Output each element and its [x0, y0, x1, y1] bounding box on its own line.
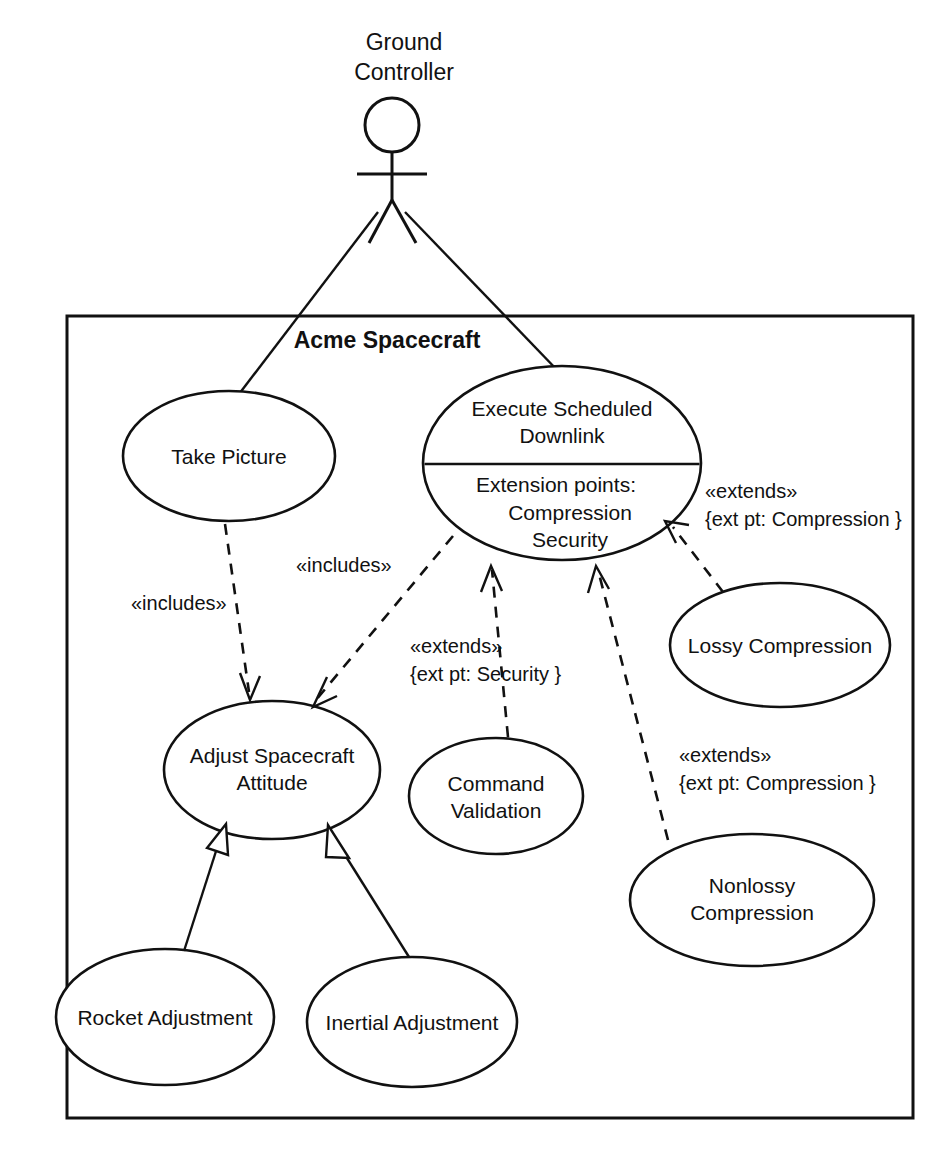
use-case-inertial-adjustment[interactable]: Inertial Adjustment [307, 957, 517, 1087]
actor-leg-right-icon [392, 200, 416, 243]
nonlossy-compression-label-line2: Compression [690, 901, 814, 924]
includes-downlink-arrowhead-icon [313, 677, 337, 707]
adjust-attitude-ellipse [164, 701, 380, 839]
use-case-execute-scheduled-downlink[interactable]: Execute Scheduled Downlink Extension poi… [423, 366, 701, 560]
actor-leg-left-icon [369, 200, 392, 243]
execute-downlink-label-line1: Execute Scheduled [472, 397, 653, 420]
extends-nonlossy-arrowhead-icon [588, 566, 609, 593]
actor-head-icon [365, 98, 419, 152]
extends-security-condition: {ext pt: Security } [410, 663, 562, 685]
extends-lossy-line [673, 527, 723, 592]
rocket-adjustment-label: Rocket Adjustment [77, 1006, 252, 1029]
association-actor-take-picture[interactable] [236, 212, 378, 398]
extends-lossy-stereotype: «extends» [705, 480, 797, 502]
generalization-rocket-line [184, 845, 218, 951]
extends-security-stereotype: «extends» [410, 635, 502, 657]
extends-lossy-condition: {ext pt: Compression } [705, 508, 902, 530]
actor-label-line1: Ground [366, 29, 443, 55]
relationship-generalization-rocket[interactable] [184, 824, 228, 951]
nonlossy-compression-label-line1: Nonlossy [709, 874, 796, 897]
use-case-lossy-compression[interactable]: Lossy Compression [670, 583, 890, 707]
extension-point-compression: Compression [508, 501, 632, 524]
actor-label-line2: Controller [354, 59, 454, 85]
use-case-adjust-spacecraft-attitude[interactable]: Adjust Spacecraft Attitude [164, 701, 380, 839]
generalization-inertial-line [340, 847, 409, 957]
includes-take-picture-label: «includes» [131, 592, 227, 614]
relationship-includes-take-picture[interactable]: «includes» [131, 524, 260, 700]
take-picture-label: Take Picture [171, 445, 287, 468]
extends-nonlossy-line [598, 570, 668, 840]
execute-downlink-label-line2: Downlink [519, 424, 605, 447]
adjust-attitude-label-line2: Attitude [236, 771, 307, 794]
includes-take-picture-line [225, 524, 249, 692]
generalization-inertial-arrowhead-icon [326, 825, 349, 858]
relationship-generalization-inertial[interactable] [326, 825, 409, 957]
inertial-adjustment-label: Inertial Adjustment [326, 1011, 499, 1034]
adjust-attitude-label-line1: Adjust Spacecraft [190, 744, 355, 767]
extends-security-arrowhead-icon [481, 566, 502, 592]
system-boundary-label: Acme Spacecraft [294, 327, 481, 353]
includes-downlink-label: «includes» [296, 554, 392, 576]
extends-nonlossy-stereotype: «extends» [679, 744, 771, 766]
use-case-nonlossy-compression[interactable]: Nonlossy Compression [630, 834, 874, 966]
diagram-svg: Ground Controller Acme Spacecraft Take P… [0, 0, 949, 1160]
use-case-rocket-adjustment[interactable]: Rocket Adjustment [56, 949, 274, 1085]
use-case-take-picture[interactable]: Take Picture [123, 391, 335, 521]
lossy-compression-label: Lossy Compression [688, 634, 872, 657]
extends-nonlossy-condition: {ext pt: Compression } [679, 772, 876, 794]
actor-ground-controller[interactable]: Ground Controller [354, 29, 454, 243]
includes-take-picture-arrowhead-icon [240, 673, 260, 700]
relationship-extends-compression-lossy[interactable]: «extends» {ext pt: Compression } [665, 480, 902, 592]
relationship-extends-security[interactable]: «extends» {ext pt: Security } [410, 566, 562, 737]
nonlossy-compression-ellipse [630, 834, 874, 966]
command-validation-label-line1: Command [448, 772, 545, 795]
use-case-diagram-canvas: Ground Controller Acme Spacecraft Take P… [0, 0, 949, 1160]
extension-points-header: Extension points: [476, 473, 636, 496]
command-validation-label-line2: Validation [451, 799, 542, 822]
command-validation-ellipse [409, 738, 583, 854]
extension-point-security: Security [532, 528, 608, 551]
use-case-command-validation[interactable]: Command Validation [409, 738, 583, 854]
